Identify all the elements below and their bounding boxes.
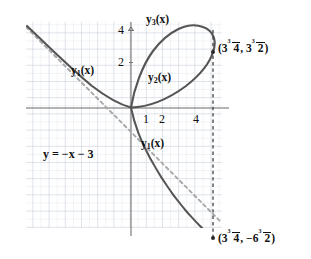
graph-figure: 4 2 1 2 4 y1(x) y3(x) y2(x) y1(x) y = −x…	[0, 0, 311, 259]
graph-canvas	[0, 0, 311, 259]
x-tick-1: 1	[143, 113, 149, 125]
x-tick-4: 4	[193, 113, 199, 125]
lower-endpoint-dot	[211, 236, 215, 240]
y-tick-4: 4	[118, 24, 124, 36]
curve-label-y3: y3(x)	[146, 14, 169, 26]
curve-label-y1-lower: y1(x)	[141, 138, 164, 150]
curve-label-y1-upper: y1(x)	[71, 65, 94, 77]
lower-endpoint-label: (334, −632)	[218, 232, 275, 245]
upper-endpoint-label: (334, 332)	[218, 42, 268, 55]
upper-endpoint-dot	[211, 50, 215, 54]
x-tick-2: 2	[159, 113, 165, 125]
curve-label-y2: y2(x)	[148, 72, 171, 84]
y-tick-2: 2	[118, 56, 124, 68]
asymptote-equation-label: y = −x − 3	[43, 148, 94, 160]
